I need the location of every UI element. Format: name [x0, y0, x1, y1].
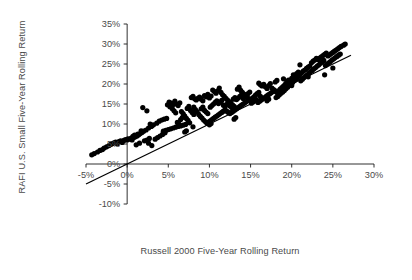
y-axis-tick-label: -10% — [99, 199, 120, 209]
scatter-point — [247, 89, 252, 94]
scatter-point — [190, 124, 195, 129]
y-axis-title: RAFI U.S. Small Five-Year Rolling Return — [17, 7, 27, 207]
scatter-point — [306, 74, 311, 79]
x-axis-title: Russell 2000 Five-Year Rolling Return — [80, 246, 360, 256]
scatter-point — [338, 51, 343, 56]
scatter-point — [233, 115, 238, 120]
y-axis-tick-label: 5% — [107, 139, 120, 149]
scatter-point — [281, 76, 286, 81]
scatter-point — [266, 97, 271, 102]
scatter-point — [191, 112, 196, 117]
x-axis-tick-label: 15% — [241, 170, 259, 180]
x-axis-tick-label: 25% — [324, 170, 342, 180]
scatter-point — [173, 110, 178, 115]
x-axis-tick-label: 30% — [365, 170, 383, 180]
scatter-point — [140, 105, 145, 110]
chart-container: RAFI U.S. Small Five-Year Rolling Return… — [0, 0, 412, 280]
scatter-point — [162, 130, 167, 135]
y-axis-tick-label: 35% — [102, 19, 120, 29]
x-axis-tick-label: 10% — [200, 170, 218, 180]
scatter-point — [289, 83, 294, 88]
x-axis-tick-label: 5% — [162, 170, 175, 180]
scatter-point — [148, 121, 153, 126]
y-axis-tick-label: -5% — [104, 179, 120, 189]
plot-area: -10%-5%0%5%10%15%20%25%30%35%-5%0%5%10%1… — [86, 24, 374, 204]
scatter-point — [134, 142, 139, 147]
scatter-point — [205, 111, 210, 116]
scatter-point — [184, 128, 189, 133]
scatter-point — [144, 108, 149, 113]
scatter-point — [130, 134, 135, 139]
y-axis-tick-label: 10% — [102, 119, 120, 129]
scatter-point — [322, 72, 327, 77]
y-axis-tick-label: 0% — [107, 159, 120, 169]
x-axis-tick-label: 20% — [283, 170, 301, 180]
scatter-point — [200, 98, 205, 103]
scatter-point — [258, 82, 263, 87]
x-axis-tick-label: 0% — [121, 170, 134, 180]
scatter-point — [181, 113, 186, 118]
scatter-point — [229, 105, 234, 110]
scatter-point — [164, 116, 169, 121]
x-axis-tick-label: -5% — [78, 170, 94, 180]
y-axis-tick-label: 15% — [102, 99, 120, 109]
scatter-point — [208, 93, 213, 98]
scatter-point — [177, 100, 182, 105]
y-axis-tick-label: 25% — [102, 59, 120, 69]
scatter-point — [219, 98, 224, 103]
scatter-point — [343, 41, 348, 46]
scatter-series — [89, 41, 348, 157]
scatter-point — [330, 65, 335, 70]
scatter-point — [147, 136, 152, 141]
scatter-point — [274, 78, 279, 83]
scatter-point — [297, 62, 302, 67]
y-axis-tick-label: 30% — [102, 39, 120, 49]
y-axis-tick-label: 20% — [102, 79, 120, 89]
scatter-point — [187, 120, 192, 125]
scatter-point — [208, 121, 213, 126]
